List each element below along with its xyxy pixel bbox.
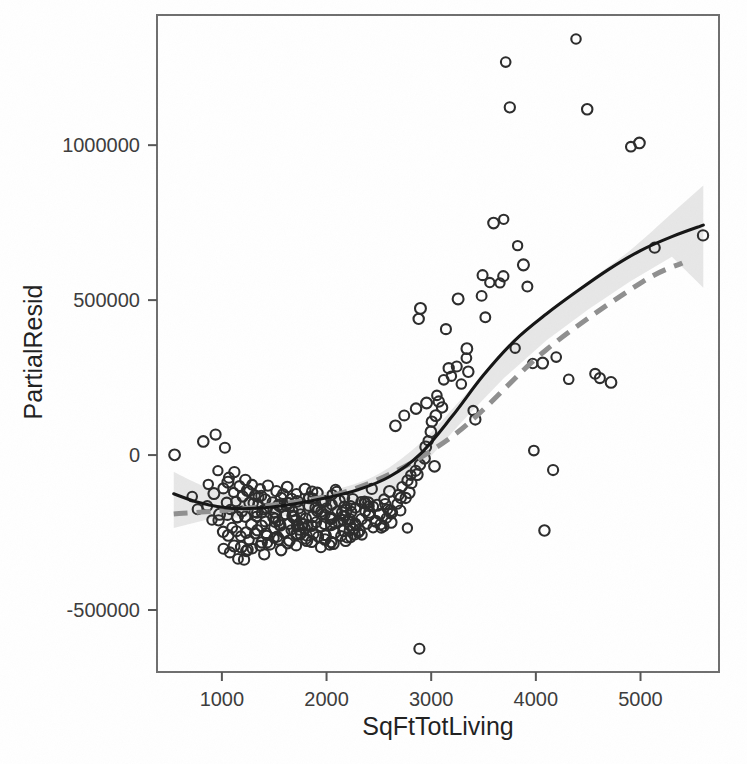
partial-residual-plot-figure: 10002000300040005000 10000005000000-5000… bbox=[0, 0, 747, 764]
paper-grain-overlay bbox=[0, 0, 747, 764]
scatter-plot-canvas: 10002000300040005000 10000005000000-5000… bbox=[0, 0, 747, 764]
